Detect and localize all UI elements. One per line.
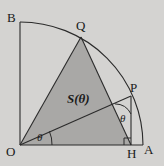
- label-vertex-b: B: [7, 11, 16, 24]
- label-angle-theta-at-p: θ: [120, 113, 125, 124]
- label-vertex-p: P: [130, 81, 137, 94]
- label-vertex-o: O: [6, 145, 15, 158]
- geometry-figure: B Q P O H A θ θ S(θ): [0, 0, 164, 166]
- label-angle-theta-at-o: θ: [37, 132, 42, 143]
- label-vertex-q: Q: [76, 19, 85, 32]
- label-area-expression: S(θ): [67, 92, 90, 105]
- label-vertex-a: A: [144, 143, 153, 156]
- label-vertex-h: H: [127, 147, 136, 160]
